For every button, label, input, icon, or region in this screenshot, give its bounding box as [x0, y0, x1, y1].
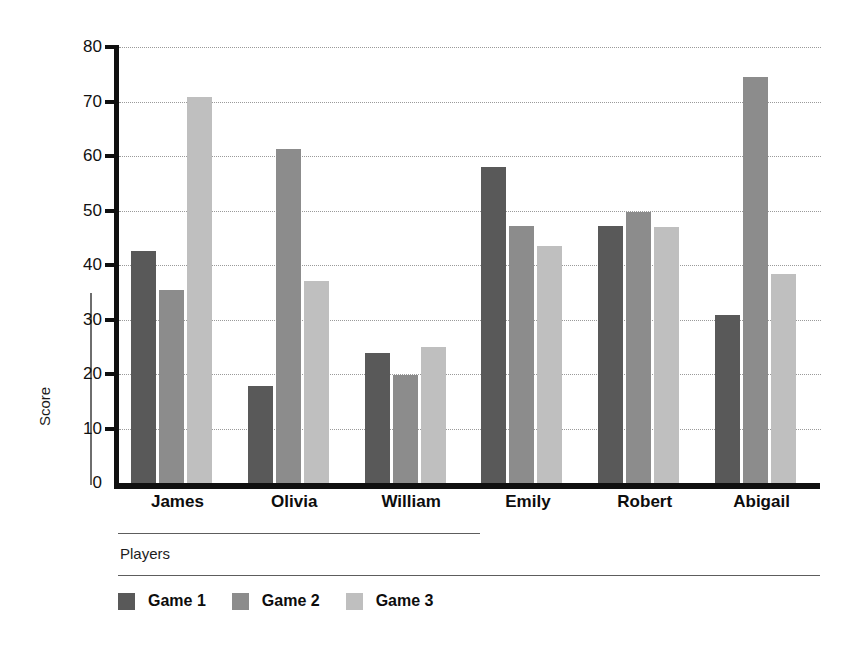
bar — [365, 353, 390, 483]
plot-area — [119, 47, 820, 483]
legend-label: Game 1 — [148, 592, 206, 610]
bar — [771, 274, 796, 483]
legend-swatch-icon — [232, 593, 249, 610]
bar — [509, 226, 534, 483]
y-axis-tick-label: 50 — [46, 202, 102, 219]
bar — [393, 375, 418, 483]
y-axis-tick-label: 70 — [46, 93, 102, 110]
legend-item[interactable]: Game 3 — [346, 592, 434, 610]
legend-swatch-icon — [346, 593, 363, 610]
x-axis-category-label: Emily — [470, 492, 587, 512]
bar — [626, 212, 651, 483]
legend-swatch-icon — [118, 593, 135, 610]
legend-label: Game 2 — [262, 592, 320, 610]
x-axis-category-label: Abigail — [703, 492, 820, 512]
legend-rule — [118, 575, 820, 576]
bar — [187, 97, 212, 483]
bar — [421, 347, 446, 483]
x-axis-title: Players — [120, 545, 170, 562]
x-axis-category-label: Robert — [586, 492, 703, 512]
x-axis-title-rule — [118, 533, 480, 534]
bar — [715, 315, 740, 483]
bar — [159, 290, 184, 483]
legend-label: Game 3 — [376, 592, 434, 610]
legend-item[interactable]: Game 1 — [118, 592, 206, 610]
x-axis-line — [114, 483, 820, 489]
y-axis-tick-label: 10 — [46, 420, 102, 437]
y-axis-tick-label: 30 — [46, 311, 102, 328]
y-axis-tick-label: 0 — [46, 474, 102, 491]
y-axis-tick-label: 80 — [46, 38, 102, 55]
legend-item[interactable]: Game 2 — [232, 592, 320, 610]
bar — [304, 281, 329, 483]
y-axis-tick-label: 20 — [46, 365, 102, 382]
y-axis-tick-label: 60 — [46, 147, 102, 164]
x-axis-category-label: William — [353, 492, 470, 512]
bar — [654, 227, 679, 483]
bar — [598, 226, 623, 483]
bar — [743, 77, 768, 483]
bar-chart: Score 01020304050607080 JamesOliviaWilli… — [0, 0, 858, 645]
bar — [131, 251, 156, 483]
x-axis-category-label: James — [119, 492, 236, 512]
bar — [276, 149, 301, 483]
y-axis-tick-label: 40 — [46, 256, 102, 273]
legend: Game 1Game 2Game 3 — [118, 592, 459, 610]
bar — [537, 246, 562, 483]
bar — [481, 167, 506, 483]
x-axis-category-label: Olivia — [236, 492, 353, 512]
bar — [248, 386, 273, 483]
